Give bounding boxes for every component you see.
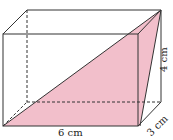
length-label: 6 cm: [58, 127, 83, 138]
height-label: 4 cm: [158, 47, 169, 72]
prism-diagram: [0, 0, 173, 140]
